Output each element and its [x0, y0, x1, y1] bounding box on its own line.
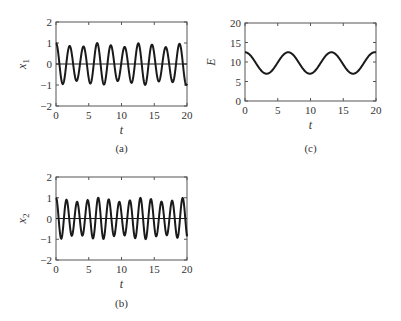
y-axis-label: x2 [15, 214, 31, 225]
y-tick-label: −1 [40, 79, 52, 91]
x-axis-label: t [120, 123, 124, 137]
x-axis-label: t [120, 277, 124, 291]
y-tick-label: 0 [47, 213, 53, 225]
y-tick-label: −2 [40, 100, 52, 112]
y-tick-label: 15 [230, 37, 242, 49]
series-line-E [245, 52, 376, 73]
x-tick-label: 15 [338, 104, 350, 116]
x-tick-label: 15 [149, 109, 161, 121]
y-tick-label: −1 [40, 233, 52, 245]
x-tick-label: 10 [116, 263, 128, 275]
x-tick-label: 15 [149, 263, 161, 275]
panel-caption: (c) [304, 142, 317, 155]
figure: 05101520−2−1012tx1(a) 0510152005101520tE… [0, 0, 401, 321]
x-tick-label: 20 [371, 104, 383, 116]
y-tick-label: 5 [236, 76, 242, 88]
x-tick-label: 10 [305, 104, 317, 116]
panel-a-x1-vs-t: 05101520−2−1012tx1(a) [15, 16, 193, 155]
x-tick-label: 0 [53, 263, 59, 275]
x-tick-label: 5 [275, 104, 281, 116]
x-tick-label: 20 [182, 263, 194, 275]
panel-caption: (b) [115, 297, 128, 310]
plot-frame [245, 23, 376, 101]
y-tick-label: 10 [230, 56, 242, 68]
y-tick-label: 2 [47, 171, 53, 183]
x-tick-label: 10 [116, 109, 128, 121]
y-tick-label: 2 [47, 16, 53, 28]
y-tick-label: 20 [230, 17, 242, 29]
x-tick-label: 0 [53, 109, 59, 121]
panel-c-energy-vs-t: 0510152005101520tE(c) [204, 17, 382, 155]
y-tick-label: 0 [47, 58, 53, 70]
x-tick-label: 5 [86, 263, 92, 275]
panel-b-x2-vs-t: 05101520−2−1012tx2(b) [15, 171, 193, 310]
x-tick-label: 20 [182, 109, 194, 121]
y-axis-label: E [204, 58, 218, 67]
y-tick-label: −2 [40, 254, 52, 266]
y-tick-label: 1 [47, 37, 53, 49]
y-axis-label: x1 [15, 59, 31, 70]
y-tick-label: 0 [236, 95, 242, 107]
x-axis-label: t [309, 118, 313, 132]
panel-caption: (a) [115, 142, 128, 155]
x-tick-label: 0 [242, 104, 248, 116]
y-tick-label: 1 [47, 192, 53, 204]
x-tick-label: 5 [86, 109, 92, 121]
